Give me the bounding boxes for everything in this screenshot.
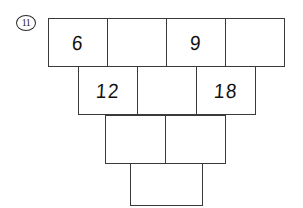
- worksheet-page: 11 6 9 12 18: [0, 0, 303, 208]
- pyramid-cell-r2c1[interactable]: 12: [78, 66, 138, 115]
- pyramid-row-2: 12 18: [78, 66, 256, 115]
- problem-number-badge: 11: [16, 15, 36, 31]
- pyramid-row-1: 6 9: [48, 18, 285, 67]
- pyramid-cell-value: 6: [71, 32, 86, 53]
- pyramid-cell-value: 18: [213, 80, 240, 101]
- pyramid-cell-r4c1[interactable]: [130, 163, 203, 206]
- pyramid-row-4: [130, 163, 203, 206]
- pyramid-cell-r3c1[interactable]: [105, 115, 166, 164]
- pyramid-cell-r1c2[interactable]: [107, 18, 167, 67]
- pyramid-cell-r3c2[interactable]: [165, 115, 226, 164]
- pyramid-cell-r2c3[interactable]: 18: [196, 66, 256, 115]
- pyramid-cell-value: 9: [189, 32, 204, 53]
- pyramid-cell-r1c4[interactable]: [225, 18, 285, 67]
- pyramid-row-3: [105, 115, 226, 164]
- pyramid-cell-value: 12: [95, 80, 122, 101]
- problem-number-label: 11: [22, 18, 31, 28]
- pyramid-cell-r1c3[interactable]: 9: [166, 18, 226, 67]
- pyramid-cell-r2c2[interactable]: [137, 66, 197, 115]
- pyramid-cell-r1c1[interactable]: 6: [48, 18, 108, 67]
